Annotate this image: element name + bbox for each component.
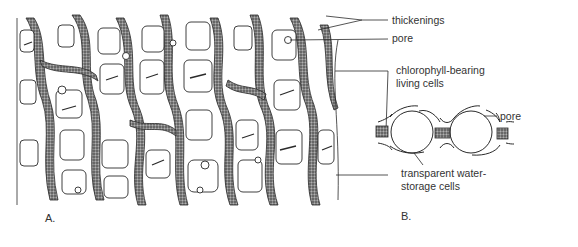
panel-a-drawing	[17, 15, 338, 205]
label-chlorophyll-line2: living cells	[396, 77, 444, 90]
label-pore-b: pore	[500, 110, 521, 123]
panel-b-drawing	[376, 106, 514, 165]
label-thickenings: thickenings	[392, 14, 445, 27]
diagram-canvas	[0, 0, 578, 247]
panel-label-b: B.	[401, 210, 411, 222]
label-chlorophyll-line1: chlorophyll-bearing	[396, 64, 485, 77]
label-pore-a: pore	[392, 32, 413, 45]
panel-label-a: A.	[45, 212, 55, 224]
label-water-storage-line2: storage cells	[401, 180, 460, 193]
label-water-storage-line1: transparent water-	[401, 167, 486, 180]
chlorophyll-cells-b	[376, 126, 508, 139]
